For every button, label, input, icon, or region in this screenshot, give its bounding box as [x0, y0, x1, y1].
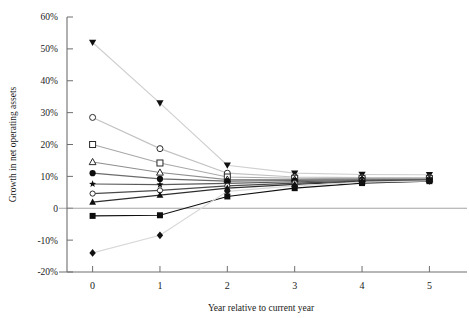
chart-container: 60%50%40%30%20%10%0-10%-20% 012345 Growt…	[0, 0, 469, 318]
series-lines-group	[93, 43, 430, 253]
data-point-marker	[89, 180, 96, 187]
data-point-marker	[89, 170, 95, 176]
y-tick-label: 30%	[41, 108, 59, 118]
y-tick-label: 50%	[41, 44, 59, 54]
line-chart: 60%50%40%30%20%10%0-10%-20% 012345 Growt…	[0, 0, 469, 318]
series-line-decile-10	[93, 43, 430, 175]
data-point-marker	[157, 146, 163, 152]
y-tick-label: 40%	[41, 76, 59, 86]
data-point-marker	[157, 232, 163, 240]
data-point-marker	[90, 213, 96, 219]
y-tick-label: 20%	[41, 140, 59, 150]
data-point-marker	[89, 249, 95, 257]
y-tick-label: -10%	[37, 236, 58, 246]
x-axis-title: Year relative to current year	[208, 303, 315, 313]
series-markers-group	[89, 40, 433, 257]
x-tick-label: 0	[90, 280, 95, 291]
x-tick-label: 2	[225, 280, 230, 291]
x-tick-label: 1	[157, 280, 162, 291]
data-point-marker	[89, 158, 96, 164]
y-tick-label: -20%	[37, 267, 58, 277]
data-point-marker	[90, 114, 96, 120]
y-tick-label: 0	[53, 204, 58, 214]
data-point-marker	[157, 212, 163, 218]
data-point-marker	[156, 181, 163, 188]
y-tick-label: 10%	[41, 172, 59, 182]
x-tick-label: 3	[292, 280, 297, 291]
y-axis-ticks: 60%50%40%30%20%10%0-10%-20%	[37, 12, 73, 277]
series-line-decile-9	[93, 117, 430, 177]
data-point-marker	[90, 191, 95, 196]
data-point-marker	[90, 142, 96, 148]
series-line-decile-8	[93, 145, 430, 179]
x-tick-label: 4	[360, 280, 365, 291]
data-point-marker	[157, 160, 163, 166]
x-tick-label: 5	[427, 280, 432, 291]
y-tick-label: 60%	[41, 12, 59, 22]
x-axis-ticks: 012345	[90, 266, 432, 291]
y-axis-title: Growth in net operating assets	[8, 86, 18, 202]
